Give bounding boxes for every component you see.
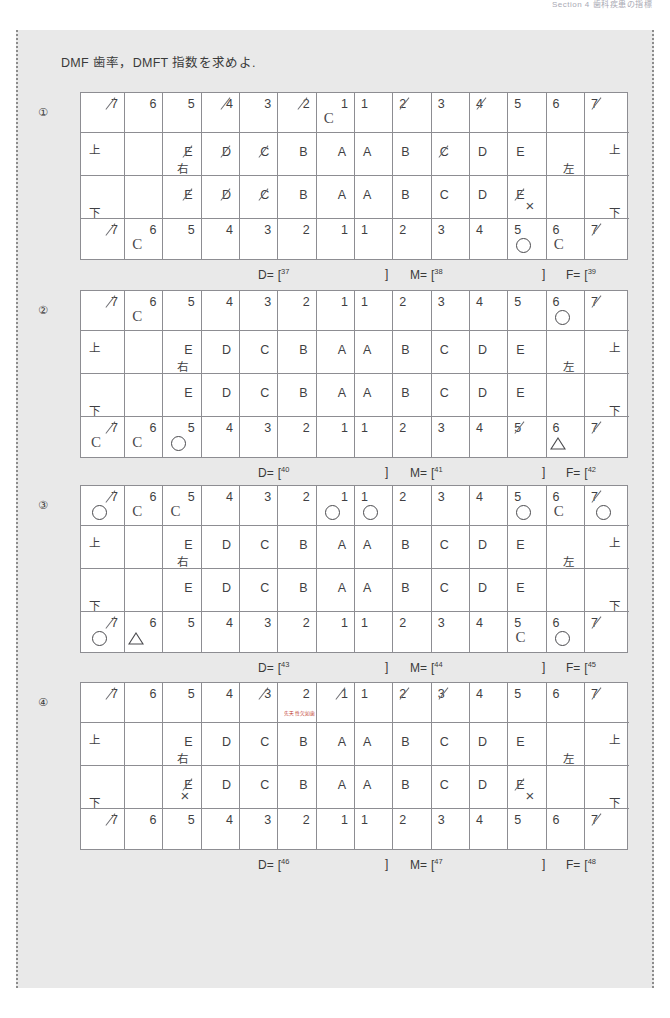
tooth-cell[interactable]: [125, 723, 163, 766]
tooth-cell[interactable]: 2: [278, 809, 316, 849]
tooth-cell[interactable]: 5: [163, 93, 201, 133]
tooth-cell[interactable]: C: [432, 526, 470, 569]
tooth-cell[interactable]: 6: [125, 809, 163, 849]
tooth-cell[interactable]: 3: [432, 612, 470, 652]
tooth-cell[interactable]: [585, 723, 629, 766]
tooth-cell[interactable]: C: [432, 176, 470, 219]
answer-field-d[interactable]: D=[37: [258, 267, 289, 282]
tooth-cell[interactable]: 4: [470, 612, 508, 652]
tooth-cell[interactable]: 3: [240, 93, 278, 133]
tooth-cell[interactable]: [81, 176, 125, 219]
tooth-cell[interactable]: E: [508, 526, 546, 569]
tooth-cell[interactable]: 2: [393, 486, 431, 526]
tooth-cell[interactable]: B: [393, 569, 431, 612]
tooth-cell[interactable]: B: [278, 569, 316, 612]
tooth-cell[interactable]: [81, 374, 125, 417]
tooth-cell[interactable]: C: [432, 569, 470, 612]
tooth-cell[interactable]: 1: [317, 683, 355, 723]
tooth-cell[interactable]: C: [240, 526, 278, 569]
tooth-cell[interactable]: C: [432, 374, 470, 417]
tooth-cell[interactable]: [125, 569, 163, 612]
tooth-cell[interactable]: 5: [163, 683, 201, 723]
tooth-cell[interactable]: B: [393, 331, 431, 374]
tooth-cell[interactable]: 3: [432, 291, 470, 331]
tooth-cell[interactable]: A: [355, 176, 393, 219]
tooth-cell[interactable]: C: [240, 569, 278, 612]
tooth-cell[interactable]: [125, 374, 163, 417]
tooth-cell[interactable]: 7C: [81, 417, 125, 457]
tooth-cell[interactable]: 5: [508, 486, 546, 526]
tooth-cell[interactable]: D: [470, 331, 508, 374]
tooth-cell[interactable]: C: [240, 723, 278, 766]
tooth-cell[interactable]: D: [470, 723, 508, 766]
tooth-cell[interactable]: 6C: [125, 291, 163, 331]
tooth-cell[interactable]: C: [240, 766, 278, 809]
tooth-cell[interactable]: [125, 176, 163, 219]
tooth-cell[interactable]: 5: [163, 612, 201, 652]
tooth-cell[interactable]: [585, 331, 629, 374]
tooth-cell[interactable]: 3: [240, 612, 278, 652]
tooth-cell[interactable]: A: [355, 766, 393, 809]
tooth-cell[interactable]: B: [278, 374, 316, 417]
tooth-cell[interactable]: D: [202, 374, 240, 417]
tooth-cell[interactable]: 7: [81, 291, 125, 331]
tooth-cell[interactable]: 4: [202, 486, 240, 526]
tooth-cell[interactable]: E: [163, 374, 201, 417]
tooth-cell[interactable]: 2: [393, 809, 431, 849]
tooth-cell[interactable]: 4: [202, 417, 240, 457]
tooth-cell[interactable]: D: [470, 569, 508, 612]
tooth-cell[interactable]: C: [432, 723, 470, 766]
tooth-cell[interactable]: 4: [470, 417, 508, 457]
tooth-cell[interactable]: 3: [240, 809, 278, 849]
tooth-cell[interactable]: 7: [81, 486, 125, 526]
tooth-cell[interactable]: [585, 374, 629, 417]
tooth-cell[interactable]: C: [240, 331, 278, 374]
tooth-cell[interactable]: E: [163, 176, 201, 219]
tooth-cell[interactable]: 4: [202, 219, 240, 259]
tooth-cell[interactable]: [585, 569, 629, 612]
tooth-cell[interactable]: 4: [202, 612, 240, 652]
answer-field-f[interactable]: F=[48: [566, 857, 596, 872]
tooth-cell[interactable]: [585, 176, 629, 219]
tooth-cell[interactable]: B: [393, 133, 431, 176]
tooth-cell[interactable]: 2: [278, 683, 316, 723]
tooth-cell[interactable]: [585, 526, 629, 569]
tooth-cell[interactable]: D: [202, 569, 240, 612]
tooth-cell[interactable]: B: [278, 723, 316, 766]
tooth-cell[interactable]: 3: [432, 417, 470, 457]
tooth-cell[interactable]: 3: [432, 93, 470, 133]
tooth-cell[interactable]: [125, 133, 163, 176]
tooth-cell[interactable]: 2: [393, 612, 431, 652]
tooth-cell[interactable]: 2: [278, 93, 316, 133]
tooth-cell[interactable]: 7: [585, 291, 629, 331]
tooth-cell[interactable]: 5: [508, 809, 546, 849]
tooth-cell[interactable]: [547, 374, 585, 417]
answer-field-m[interactable]: M=[47: [410, 857, 443, 872]
tooth-cell[interactable]: 2: [393, 417, 431, 457]
tooth-cell[interactable]: A: [317, 374, 355, 417]
tooth-cell[interactable]: 3: [240, 486, 278, 526]
tooth-cell[interactable]: B: [278, 766, 316, 809]
tooth-cell[interactable]: [81, 766, 125, 809]
tooth-cell[interactable]: 2: [278, 219, 316, 259]
tooth-cell[interactable]: E×: [508, 766, 546, 809]
tooth-cell[interactable]: 1: [317, 291, 355, 331]
tooth-cell[interactable]: E: [508, 723, 546, 766]
tooth-cell[interactable]: D: [470, 526, 508, 569]
tooth-cell[interactable]: 6: [547, 612, 585, 652]
tooth-cell[interactable]: 6: [125, 683, 163, 723]
tooth-cell[interactable]: D: [202, 331, 240, 374]
tooth-cell[interactable]: [125, 526, 163, 569]
tooth-cell[interactable]: 1: [355, 809, 393, 849]
tooth-cell[interactable]: [81, 133, 125, 176]
tooth-cell[interactable]: 3: [432, 219, 470, 259]
tooth-cell[interactable]: A: [317, 569, 355, 612]
tooth-cell[interactable]: [81, 569, 125, 612]
tooth-cell[interactable]: 6C: [547, 486, 585, 526]
tooth-cell[interactable]: B: [393, 526, 431, 569]
answer-field-m[interactable]: M=[38: [410, 267, 443, 282]
tooth-cell[interactable]: A: [317, 176, 355, 219]
answer-field-f[interactable]: F=[42: [566, 465, 596, 480]
tooth-cell[interactable]: 7: [81, 219, 125, 259]
tooth-cell[interactable]: 3: [240, 219, 278, 259]
